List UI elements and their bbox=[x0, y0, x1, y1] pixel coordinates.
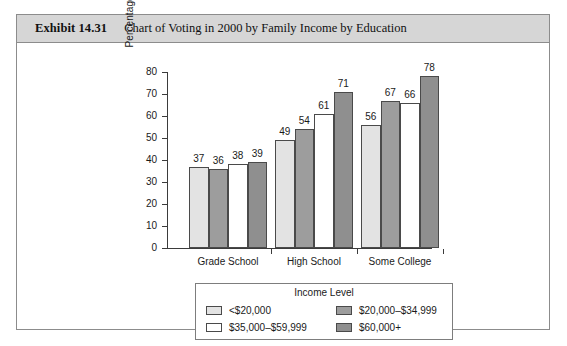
exhibit-title: Chart of Voting in 2000 by Family Income… bbox=[124, 21, 407, 36]
legend-swatch bbox=[336, 323, 352, 332]
bar-value-label: 61 bbox=[310, 101, 338, 111]
x-axis-category-label: Some College bbox=[341, 256, 459, 267]
bar bbox=[295, 129, 315, 248]
y-axis-tick-label: 20 bbox=[129, 199, 157, 209]
bar bbox=[381, 101, 401, 248]
legend-label: $60,000+ bbox=[359, 322, 401, 333]
x-axis-separator-tick bbox=[357, 249, 358, 254]
bar-value-label: 56 bbox=[357, 112, 385, 122]
y-axis-tick bbox=[162, 72, 167, 73]
bar bbox=[361, 125, 381, 248]
legend-swatch bbox=[206, 306, 222, 315]
exhibit-header: Exhibit 14.31 Chart of Voting in 2000 by… bbox=[17, 15, 549, 43]
y-axis-tick-label: 80 bbox=[129, 67, 157, 77]
bar bbox=[228, 164, 248, 248]
y-axis-tick-label: 10 bbox=[129, 221, 157, 231]
y-axis-tick bbox=[162, 138, 167, 139]
y-axis-tick bbox=[162, 182, 167, 183]
legend-item: <$20,000 bbox=[206, 304, 271, 317]
bar-value-label: 71 bbox=[330, 79, 358, 89]
y-axis-tick bbox=[162, 204, 167, 205]
y-axis-tick-label: 70 bbox=[129, 89, 157, 99]
legend: Income Level <$20,000$20,000–$34,999$35,… bbox=[195, 283, 453, 340]
exhibit-number: Exhibit 14.31 bbox=[35, 21, 107, 36]
bar bbox=[248, 162, 268, 248]
y-axis-tick-label: 60 bbox=[129, 111, 157, 121]
bar-value-label: 49 bbox=[271, 127, 299, 137]
bar-value-label: 78 bbox=[416, 63, 444, 73]
legend-item: $60,000+ bbox=[336, 321, 401, 334]
legend-label: $35,000–$59,999 bbox=[229, 322, 307, 333]
y-axis-tick bbox=[162, 248, 167, 249]
y-axis-line bbox=[167, 72, 168, 249]
y-axis-tick bbox=[162, 160, 167, 161]
bar-value-label: 54 bbox=[291, 116, 319, 126]
x-axis-separator-tick bbox=[271, 249, 272, 254]
bar bbox=[189, 167, 209, 248]
chart-area: Percentage Who Voted 01020304050607080 G… bbox=[17, 43, 551, 330]
bar bbox=[400, 103, 420, 248]
y-axis-tick-label: 50 bbox=[129, 133, 157, 143]
x-axis-separator-tick bbox=[443, 249, 444, 254]
y-axis-tick-label: 0 bbox=[129, 243, 157, 253]
y-axis-tick-label: 30 bbox=[129, 177, 157, 187]
bar bbox=[420, 76, 440, 248]
y-axis-tick bbox=[162, 116, 167, 117]
bar bbox=[275, 140, 295, 248]
exhibit-box: Exhibit 14.31 Chart of Voting in 2000 by… bbox=[16, 14, 550, 330]
legend-item: $20,000–$34,999 bbox=[336, 304, 437, 317]
bar bbox=[334, 92, 354, 248]
y-axis-tick bbox=[162, 226, 167, 227]
bar-value-label: 39 bbox=[244, 149, 272, 159]
legend-swatch bbox=[336, 306, 352, 315]
legend-swatch bbox=[206, 323, 222, 332]
bar bbox=[314, 114, 334, 248]
bar-value-label: 66 bbox=[396, 90, 424, 100]
legend-title: Income Level bbox=[196, 287, 452, 298]
x-axis-line bbox=[167, 248, 432, 249]
y-axis-tick bbox=[162, 94, 167, 95]
legend-label: $20,000–$34,999 bbox=[359, 305, 437, 316]
legend-label: <$20,000 bbox=[229, 305, 271, 316]
y-axis-tick-label: 40 bbox=[129, 155, 157, 165]
legend-item: $35,000–$59,999 bbox=[206, 321, 307, 334]
bar bbox=[209, 169, 229, 248]
